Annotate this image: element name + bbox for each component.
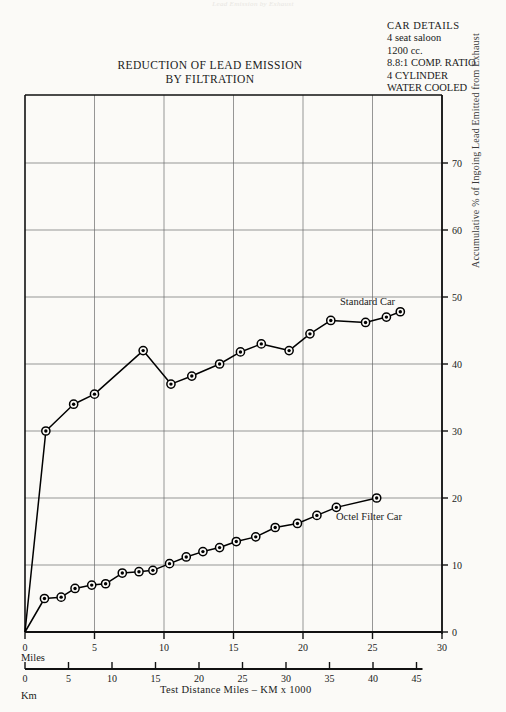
data-point-center	[364, 321, 367, 324]
data-point-center	[201, 550, 204, 553]
svg-text:0: 0	[452, 627, 457, 638]
data-point-center	[43, 597, 46, 600]
data-point-center	[254, 535, 257, 538]
data-point-center	[137, 570, 140, 573]
data-point-center	[375, 496, 378, 499]
series-line-0	[25, 312, 400, 632]
series-label-octel-filter-car: Octel Filter Car	[336, 511, 402, 522]
plot-area: 051015202530 051015202530354045 01020304…	[0, 0, 506, 712]
svg-text:40: 40	[368, 673, 378, 684]
data-point-center	[168, 562, 171, 565]
data-point-center	[104, 582, 107, 585]
svg-text:10: 10	[452, 560, 462, 571]
svg-text:50: 50	[452, 292, 462, 303]
data-point-center	[296, 522, 299, 525]
data-point-center	[59, 595, 62, 598]
data-point-center	[218, 546, 221, 549]
data-point-center	[93, 392, 96, 395]
svg-text:5: 5	[66, 673, 71, 684]
x-axis-miles: 051015202530	[23, 632, 448, 653]
svg-text:15: 15	[151, 673, 161, 684]
svg-text:60: 60	[452, 225, 462, 236]
svg-text:35: 35	[325, 673, 335, 684]
data-point-center	[72, 403, 75, 406]
data-point-center	[308, 332, 311, 335]
data-series-layer	[25, 308, 404, 632]
svg-text:10: 10	[107, 673, 117, 684]
data-point-center	[399, 310, 402, 313]
data-point-center	[141, 349, 144, 352]
svg-text:70: 70	[452, 158, 462, 169]
svg-text:20: 20	[194, 673, 204, 684]
data-point-center	[329, 319, 332, 322]
data-point-center	[287, 349, 290, 352]
data-point-center	[274, 526, 277, 529]
data-point-center	[44, 429, 47, 432]
data-point-center	[218, 362, 221, 365]
data-point-center	[73, 587, 76, 590]
svg-text:0: 0	[23, 673, 28, 684]
svg-text:30: 30	[281, 673, 291, 684]
chart-svg: 051015202530 051015202530354045 01020304…	[0, 0, 506, 712]
svg-text:40: 40	[452, 359, 462, 370]
data-point-center	[239, 350, 242, 353]
y-axis-title: Accumulative % of Ingoing Lead Emitted f…	[470, 28, 481, 268]
svg-text:45: 45	[412, 673, 422, 684]
x-axis-caption: Test Distance Miles – KM x 1000	[160, 684, 311, 695]
data-point-center	[335, 506, 338, 509]
series-label-standard-car: Standard Car	[340, 296, 395, 307]
data-point-center	[185, 555, 188, 558]
svg-text:15: 15	[229, 642, 239, 653]
x-axis-unit-miles: Miles	[21, 652, 45, 663]
data-point-center	[315, 514, 318, 517]
grid-lines	[25, 95, 442, 632]
y-axis: 010203040506070	[442, 95, 462, 638]
svg-text:20: 20	[298, 642, 308, 653]
data-point-center	[169, 382, 172, 385]
svg-text:30: 30	[452, 426, 462, 437]
data-point-center	[151, 569, 154, 572]
svg-text:25: 25	[238, 673, 248, 684]
x-axis-unit-km: Km	[21, 690, 37, 701]
svg-text:25: 25	[368, 642, 378, 653]
data-point-center	[121, 571, 124, 574]
data-point-center	[385, 315, 388, 318]
svg-text:10: 10	[159, 642, 169, 653]
data-point-center	[260, 342, 263, 345]
data-point-center	[90, 583, 93, 586]
data-point-center	[190, 374, 193, 377]
svg-text:20: 20	[452, 493, 462, 504]
data-point-center	[235, 540, 238, 543]
svg-text:30: 30	[437, 642, 447, 653]
x-axis-km: 051015202530354045	[23, 662, 423, 684]
chart-page: Lead Emission by Exhaust CAR DETAILS 4 s…	[0, 0, 506, 712]
svg-text:5: 5	[92, 642, 97, 653]
